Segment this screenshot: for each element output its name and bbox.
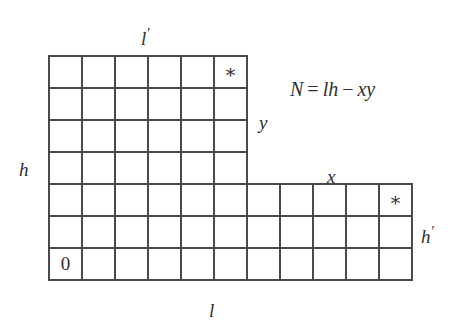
equation-minus-sign: − bbox=[338, 78, 357, 100]
label-inner-width-x: x bbox=[327, 167, 335, 186]
equation-n-equals-lh-minus-xy: N=lh−xy bbox=[290, 79, 375, 99]
origin-cell-zero: 0 bbox=[49, 248, 82, 280]
label-right-height-letter: h bbox=[421, 226, 431, 247]
label-right-height-h-prime: h′ bbox=[421, 224, 434, 246]
skew-diagram-figure: ∗ ∗ 0 l′ h y x h′ l N=lh−xy bbox=[0, 0, 466, 331]
label-inner-height-y: y bbox=[259, 113, 267, 132]
equation-equals-sign: = bbox=[303, 78, 322, 100]
equation-term-xy: xy bbox=[357, 78, 375, 100]
label-left-height-h: h bbox=[19, 160, 29, 179]
star-cell-lower: ∗ bbox=[379, 184, 412, 216]
label-right-height-prime-mark: ′ bbox=[431, 223, 434, 239]
star-cell-upper: ∗ bbox=[214, 56, 247, 88]
equation-lhs: N bbox=[290, 78, 303, 100]
label-bottom-width-l: l bbox=[209, 301, 214, 320]
equation-term-lh: lh bbox=[323, 78, 339, 100]
label-top-width-l-prime: l′ bbox=[141, 26, 150, 48]
label-top-width-prime-mark: ′ bbox=[146, 25, 149, 41]
grid-canvas bbox=[0, 0, 466, 331]
